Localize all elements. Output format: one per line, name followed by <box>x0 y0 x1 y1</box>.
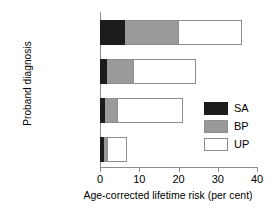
x-tick-label-10: 10 <box>124 173 154 185</box>
x-tick-20 <box>179 167 180 172</box>
x-tick-40 <box>257 167 258 172</box>
legend-item-bp: BP <box>204 118 272 134</box>
x-axis-title: Age-corrected lifetime risk (per cent) <box>62 189 274 201</box>
x-tick-10 <box>139 167 140 172</box>
x-tick-label-0: 0 <box>85 173 115 185</box>
bar-segment-sa <box>100 137 104 162</box>
legend: SA BP UP <box>204 100 272 154</box>
bar-segment-sa <box>100 59 107 84</box>
legend-swatch-sa-icon <box>204 102 228 115</box>
bar-segment-sa <box>100 20 125 45</box>
legend-label-sa: SA <box>234 102 249 114</box>
legend-swatch-bp-icon <box>204 120 228 133</box>
legend-swatch-up-icon <box>204 138 228 151</box>
x-tick-label-20: 20 <box>164 173 194 185</box>
legend-label-up: UP <box>234 138 249 150</box>
x-tick-label-40: 40 <box>242 173 272 185</box>
bar-segment-sa <box>100 98 105 123</box>
legend-item-sa: SA <box>204 100 272 116</box>
x-tick-30 <box>218 167 219 172</box>
x-tick-0 <box>100 167 101 172</box>
x-tick-label-30: 30 <box>203 173 233 185</box>
legend-label-bp: BP <box>234 120 249 132</box>
legend-item-up: UP <box>204 136 272 152</box>
chart-figure: Proband diagnosis Schizoaffective (SA) (… <box>0 0 274 210</box>
y-axis-title: Proband diagnosis <box>22 19 33 149</box>
